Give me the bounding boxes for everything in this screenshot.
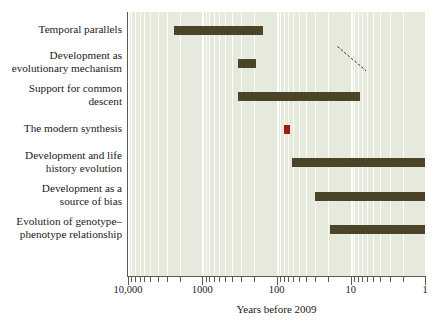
timeline-bar <box>174 26 263 35</box>
gridline <box>128 12 130 277</box>
gridline <box>328 12 329 277</box>
gridline <box>209 12 210 277</box>
gridline <box>293 12 294 277</box>
x-axis-tick <box>380 277 381 282</box>
x-axis-tick <box>254 277 255 282</box>
category-label: Development and life history evolution <box>2 149 122 175</box>
timeline-chart: 10,0001000100101 Temporal parallelsDevel… <box>0 0 439 328</box>
gridline <box>390 12 391 277</box>
y-axis-line <box>127 12 128 277</box>
gridline <box>144 12 145 277</box>
x-axis-tick <box>167 277 168 282</box>
gridline <box>362 12 363 277</box>
x-axis-tick <box>280 277 281 282</box>
gridline <box>140 12 141 277</box>
gridline <box>225 12 226 277</box>
gridline <box>288 12 289 277</box>
x-axis-tick <box>354 277 355 282</box>
x-axis-tick <box>367 277 368 282</box>
gridline <box>158 12 159 277</box>
x-axis-tick <box>150 277 151 282</box>
x-axis-tick <box>140 277 141 282</box>
x-tick-label: 100 <box>269 284 285 295</box>
x-axis-tick <box>306 277 307 282</box>
gridline <box>202 12 204 277</box>
x-axis-tick <box>390 277 391 282</box>
gridline <box>403 12 404 277</box>
gridline <box>131 12 132 277</box>
gridline <box>354 12 355 277</box>
gridlines <box>128 12 425 277</box>
timeline-bar <box>284 125 291 134</box>
gridline <box>241 12 242 277</box>
category-label: The modern synthesis <box>2 122 122 135</box>
x-axis-tick <box>214 277 215 282</box>
x-axis-tick <box>241 277 242 282</box>
x-tick-label: 10 <box>346 284 357 295</box>
x-axis-tick <box>358 277 359 282</box>
timeline-bar <box>238 92 360 101</box>
x-axis-tick <box>206 277 207 282</box>
timeline-bar <box>315 192 425 201</box>
x-axis-tick <box>135 277 136 282</box>
gridline <box>315 12 316 277</box>
x-axis-tick <box>293 277 294 282</box>
x-axis-title: Years before 2009 <box>128 303 425 315</box>
x-axis-tick <box>315 277 316 282</box>
gridline <box>277 12 279 277</box>
x-tick-label: 1000 <box>192 284 213 295</box>
x-tick-label: 1 <box>422 284 427 295</box>
x-axis-tick <box>225 277 226 282</box>
gridline <box>219 12 220 277</box>
x-axis-tick <box>209 277 210 282</box>
x-axis-tick <box>362 277 363 282</box>
category-label: Evolution of genotype– phenotype relatio… <box>2 215 122 241</box>
plot-area <box>128 12 425 277</box>
x-axis-tick <box>219 277 220 282</box>
category-label: Development as a source of bias <box>2 182 122 208</box>
gridline <box>150 12 151 277</box>
gridline <box>232 12 233 277</box>
gridline <box>206 12 207 277</box>
gridline <box>380 12 381 277</box>
x-tick-label: 10,000 <box>114 284 143 295</box>
category-label: Development as evolutionary mechanism <box>2 49 122 75</box>
category-label: Temporal parallels <box>2 23 122 36</box>
x-axis-tick <box>232 277 233 282</box>
gridline <box>180 12 181 277</box>
gridline <box>284 12 285 277</box>
timeline-bar <box>330 225 425 234</box>
gridline <box>214 12 215 277</box>
x-axis-tick <box>180 277 181 282</box>
x-axis-tick <box>328 277 329 282</box>
gridline <box>373 12 374 277</box>
gridline <box>351 12 353 277</box>
gridline <box>306 12 307 277</box>
x-axis-tick <box>373 277 374 282</box>
x-axis-tick <box>403 277 404 282</box>
gridline <box>167 12 168 277</box>
x-axis-tick <box>131 277 132 282</box>
x-axis-tick <box>288 277 289 282</box>
gridline <box>358 12 359 277</box>
x-axis-tick <box>158 277 159 282</box>
x-axis-tick <box>144 277 145 282</box>
timeline-bar <box>238 59 256 68</box>
timeline-bar <box>292 158 425 167</box>
gridline <box>299 12 300 277</box>
gridline <box>367 12 368 277</box>
x-axis-tick <box>284 277 285 282</box>
gridline <box>135 12 136 277</box>
gridline <box>254 12 255 277</box>
category-label: Support for common descent <box>2 82 122 108</box>
x-axis-tick <box>299 277 300 282</box>
gridline <box>280 12 281 277</box>
